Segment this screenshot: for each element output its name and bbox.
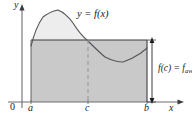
origin-label: 0 [10,102,15,112]
x-axis-label: x [169,103,173,113]
y-axis-label: y [14,0,18,10]
tick-label-a: a [28,103,33,113]
average-value-label: f(c) = fave [158,64,192,74]
dimension-arrowhead-bottom-icon [150,98,155,104]
x-axis-arrowhead-icon [178,99,185,104]
tick-label-b: b [144,103,149,113]
average-value-label-subscript: ave [185,67,192,74]
function-label: y = f(x) [77,9,109,20]
average-value-label-main: f(c) = f [158,63,185,73]
tick-label-c: c [85,103,89,113]
y-axis-arrowhead-icon [19,4,24,11]
mean-value-theorem-figure: y x 0 a c b y = f(x) f(c) = fave [0,0,192,118]
